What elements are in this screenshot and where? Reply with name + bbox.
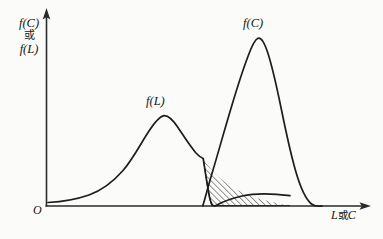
x-axis-label-right: C <box>348 208 356 222</box>
curve-f-of-L <box>48 116 290 206</box>
origin-label: O <box>33 204 42 217</box>
y-axis-label-line3: f(L) <box>11 42 47 56</box>
y-axis-label: f(C) 或 f(L) <box>11 16 47 56</box>
y-axis-label-line1: f(C) <box>11 16 47 30</box>
figure-root: f(C) 或 f(L) L或C O f(L) f(C) <box>0 0 383 239</box>
curve-label-f-of-C: f(C) <box>243 16 263 30</box>
x-axis-label-left: L <box>331 208 338 222</box>
distribution-plot-svg <box>0 0 383 239</box>
y-axis-label-line2: 或 <box>11 30 47 42</box>
x-axis-label-middle: 或 <box>338 209 348 221</box>
curve-label-f-of-L: f(L) <box>146 94 165 108</box>
x-axis-label: L或C <box>331 209 356 222</box>
